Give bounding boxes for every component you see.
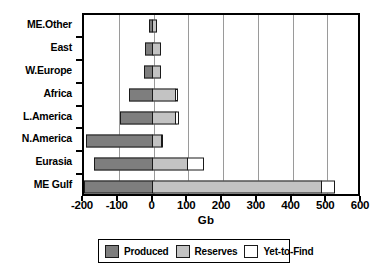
y-axis-label-east: East [51, 36, 72, 59]
legend-item: Yet-to-Find [244, 245, 313, 258]
bar-row [84, 152, 358, 175]
stacked-bar [149, 20, 155, 33]
x-axis-tick-label: 600 [351, 199, 369, 211]
legend-label: Yet-to-Find [263, 246, 313, 257]
bar-segment-yet-to-find [321, 180, 335, 193]
stacked-bar [145, 43, 160, 56]
bar-segment-yet-to-find [161, 134, 163, 147]
legend-item: Reserves [176, 245, 238, 258]
bar-segment-produced [84, 180, 154, 193]
x-axis-tick-labels: -200-1000100200300400500600 [0, 199, 383, 215]
bar-chart: ME.OtherEastW.EuropeAfricaL.AmericaN.Ame… [0, 0, 383, 275]
y-axis-label-l-america: L.America [23, 105, 72, 128]
stacked-bar [144, 66, 160, 79]
stacked-bar [129, 89, 177, 102]
bar-row [84, 175, 358, 198]
chart-legend: ProducedReservesYet-to-Find [98, 239, 290, 263]
x-axis-title: Gb [0, 214, 383, 226]
legend-swatch-produced [105, 245, 119, 258]
plot-area [82, 13, 360, 196]
legend-swatch-reserves [176, 245, 190, 258]
y-axis-label-africa: Africa [43, 82, 72, 105]
y-axis-label-w-europe: W.Europe [25, 59, 72, 82]
bar-segment-reserves [152, 89, 176, 102]
y-axis-label-eurasia: Eurasia [35, 150, 72, 173]
bar-segment-reserves [152, 111, 176, 124]
bar-row [84, 38, 358, 61]
bar-segment-reserves [152, 157, 188, 170]
legend-label: Reserves [195, 246, 238, 257]
bar-row [84, 129, 358, 152]
bar-row [84, 107, 358, 130]
bar-segment-produced [94, 157, 153, 170]
stacked-bar [86, 134, 161, 147]
x-axis-tick-label: -200 [71, 199, 93, 211]
bar-segment-yet-to-find [175, 111, 178, 124]
legend-swatch-yetfind [244, 245, 258, 258]
x-axis-tick-label: 100 [177, 199, 195, 211]
y-axis-label-me-other: ME.Other [27, 13, 72, 36]
x-axis-tick-label: 300 [247, 199, 265, 211]
x-axis-tick-label: 500 [316, 199, 334, 211]
y-axis-label-n-america: N.America [22, 127, 72, 150]
x-axis-tick-label: 0 [148, 199, 154, 211]
bar-segment-reserves [152, 66, 161, 79]
y-axis-category-labels: ME.OtherEastW.EuropeAfricaL.AmericaN.Ame… [0, 13, 78, 196]
bar-segment-produced [129, 89, 153, 102]
legend-item: Produced [105, 245, 169, 258]
x-axis-tick-label: 400 [281, 199, 299, 211]
bar-segment-yet-to-find [175, 89, 178, 102]
bar-segment-reserves [152, 180, 322, 193]
bar-segment-reserves [152, 43, 161, 56]
x-axis-title-text: Gb [198, 214, 214, 226]
bar-row [84, 84, 358, 107]
bar-row [84, 15, 358, 38]
stacked-bar [120, 111, 177, 124]
bar-segment-reserves [152, 20, 157, 33]
bar-segment-produced [120, 111, 153, 124]
stacked-bar [84, 180, 334, 193]
stacked-bar [94, 157, 202, 170]
bar-segment-produced [86, 134, 153, 147]
x-axis-tick-label: -100 [106, 199, 128, 211]
bar-row [84, 61, 358, 84]
y-axis-label-me-gulf: ME Gulf [34, 173, 72, 196]
bar-segment-yet-to-find [187, 157, 204, 170]
legend-label: Produced [124, 246, 169, 257]
x-axis-tick-label: 200 [212, 199, 230, 211]
